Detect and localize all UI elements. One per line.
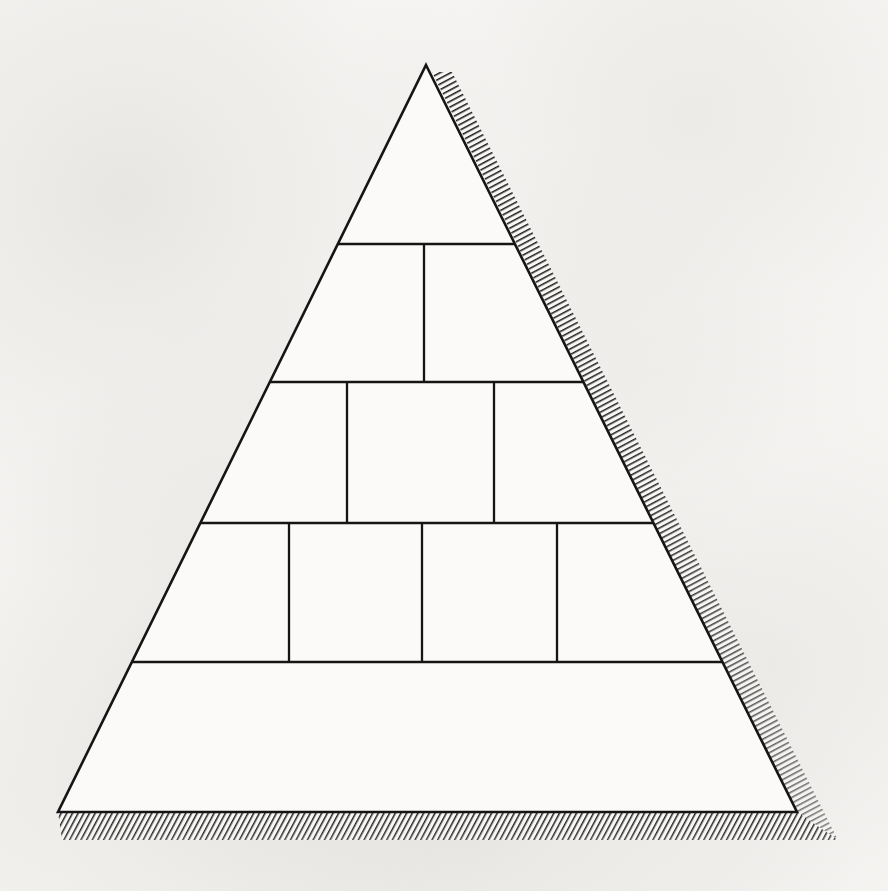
tier-2-cell-1 xyxy=(270,244,424,382)
tier-3-cell-1 xyxy=(200,382,347,523)
pyramid-cells-group xyxy=(58,65,797,812)
shadow-band-bottom xyxy=(58,812,838,840)
tier-5-cell-1 xyxy=(58,662,797,812)
tier-3-cell-2 xyxy=(347,382,494,523)
tier-4-cell-2 xyxy=(289,523,422,662)
tier-4-cell-3 xyxy=(422,523,557,662)
pyramid-body-group xyxy=(58,65,797,812)
figure-canvas xyxy=(0,0,888,891)
tier-4-cell-1 xyxy=(131,523,289,662)
pyramid-diagram xyxy=(0,0,888,891)
